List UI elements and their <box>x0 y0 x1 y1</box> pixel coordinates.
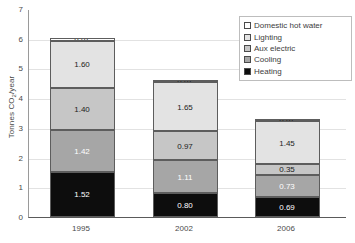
legend-label: Cooling <box>254 55 281 64</box>
bar-segment[interactable]: 0.35 <box>255 164 320 174</box>
x-tick-label: 2002 <box>139 224 229 233</box>
legend-swatch-icon <box>244 22 251 29</box>
bar-segment-value: 1.45 <box>256 138 319 147</box>
bar-segment[interactable]: 1.45 <box>255 121 320 164</box>
x-tick-label: 2006 <box>241 224 331 233</box>
bar-segment[interactable]: 1.40 <box>50 88 115 130</box>
stacked-bar-chart: Tonnes CO2/year 76543210 1.521.421.401.6… <box>0 0 355 243</box>
legend: Domestic hot waterLightingAux electricCo… <box>239 16 352 81</box>
legend-item[interactable]: Heating <box>244 66 348 77</box>
bar-segment[interactable]: 1.11 <box>153 160 218 193</box>
legend-item[interactable]: Lighting <box>244 31 348 42</box>
bar-segment[interactable]: 0.97 <box>153 131 218 160</box>
bar-segment-value: 0.07 <box>154 80 217 82</box>
bar-segment[interactable]: 0.69 <box>255 197 320 218</box>
y-tick-label: 2 <box>6 155 23 163</box>
legend-swatch-icon <box>244 34 251 41</box>
y-tick-label: 0 <box>6 214 23 222</box>
bar-stack-2002[interactable]: 0.801.110.971.650.07 <box>153 9 218 217</box>
bar-segment[interactable]: 0.80 <box>153 193 218 217</box>
bar-segment[interactable]: 0.07 <box>50 38 115 40</box>
legend-label: Lighting <box>254 33 282 42</box>
bar-segment[interactable]: 1.42 <box>50 130 115 172</box>
bar-segment-value: 1.11 <box>154 172 217 181</box>
legend-swatch-icon <box>244 68 251 75</box>
y-tick-label: 5 <box>6 65 23 73</box>
bar-segment-value: 0.80 <box>154 201 217 210</box>
legend-item[interactable]: Domestic hot water <box>244 20 348 31</box>
y-tick-label: 1 <box>6 184 23 192</box>
bar-segment[interactable]: 1.60 <box>50 41 115 89</box>
bar-stack-1995[interactable]: 1.521.421.401.600.07 <box>50 9 115 217</box>
y-tick-label: 3 <box>6 125 23 133</box>
legend-item[interactable]: Aux electric <box>244 43 348 54</box>
bar-segment-value: 1.60 <box>51 60 114 69</box>
legend-label: Aux electric <box>254 44 295 53</box>
y-tick-label: 6 <box>6 36 23 44</box>
legend-swatch-icon <box>244 56 251 63</box>
bar-segment-value: 1.52 <box>51 190 114 199</box>
legend-label: Domestic hot water <box>254 21 322 30</box>
y-tick-label: 7 <box>6 6 23 14</box>
legend-swatch-icon <box>244 45 251 52</box>
bar-segment-value: 0.07 <box>51 38 114 40</box>
legend-item[interactable]: Cooling <box>244 54 348 65</box>
bar-segment-value: 1.42 <box>51 146 114 155</box>
x-tick-label: 1995 <box>36 224 126 233</box>
bar-segment-value: 0.07 <box>256 119 319 121</box>
bar-segment[interactable]: 0.07 <box>153 80 218 82</box>
bar-segment[interactable]: 0.73 <box>255 175 320 197</box>
bar-segment[interactable]: 1.65 <box>153 82 218 131</box>
bar-segment-value: 0.35 <box>256 166 319 174</box>
bar-segment-value: 0.73 <box>256 181 319 190</box>
y-tick-label: 4 <box>6 95 23 103</box>
bar-segment-value: 0.69 <box>256 202 319 211</box>
bar-segment[interactable]: 0.07 <box>255 119 320 121</box>
bar-segment-value: 0.97 <box>154 141 217 150</box>
bar-segment[interactable]: 1.52 <box>50 172 115 217</box>
bar-segment-value: 1.65 <box>154 102 217 111</box>
legend-label: Heating <box>254 67 282 76</box>
bar-segment-value: 1.40 <box>51 104 114 113</box>
